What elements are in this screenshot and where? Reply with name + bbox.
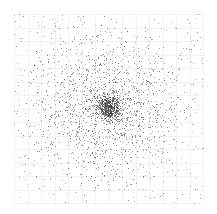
scatter-plot [0, 0, 217, 214]
